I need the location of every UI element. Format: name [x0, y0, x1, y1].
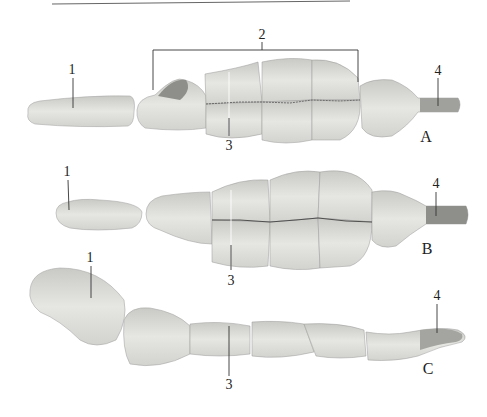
callout-a-3: 3	[226, 139, 233, 153]
panel-label-c: C	[423, 361, 434, 377]
callout-b-1: 1	[64, 165, 71, 179]
panel-c-bones	[30, 268, 465, 366]
top-rule	[52, 1, 350, 4]
callout-b-3: 3	[228, 274, 235, 288]
panel-b-bones	[56, 171, 468, 270]
callout-c-3: 3	[226, 378, 233, 392]
callout-a-1: 1	[69, 63, 76, 77]
callout-c-1: 1	[87, 251, 94, 265]
panel-label-a: A	[420, 129, 432, 145]
panel-a-bones	[28, 58, 460, 143]
callout-a-4: 4	[435, 64, 442, 78]
anatomical-figure: 1 2 3 4 A 1 3 4 B 1 3 4 C	[0, 0, 487, 417]
callout-c-4: 4	[434, 289, 441, 303]
callout-a-2: 2	[259, 28, 266, 42]
panel-label-b: B	[422, 241, 433, 257]
callout-b-4: 4	[433, 177, 440, 191]
